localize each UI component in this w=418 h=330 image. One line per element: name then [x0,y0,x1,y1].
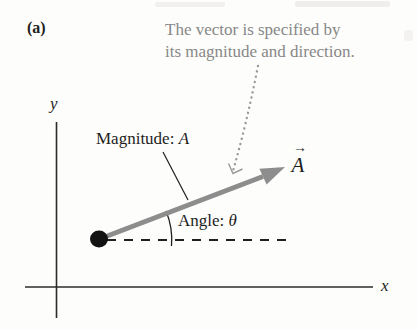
panel-label: (a) [27,18,46,38]
magnitude-callout-text: Magnitude: [96,129,174,148]
vector-symbol-label: → A [289,143,307,179]
annotation-line-1: The vector is specified by [165,20,341,39]
x-axis-label: x [381,275,389,297]
vector-symbol-letter: A [292,153,305,177]
scan-artifact [404,30,413,41]
annotation-note: The vector is specified by its magnitude… [165,19,355,63]
vector-arrowhead-icon [259,167,285,185]
magnitude-leader-line [163,152,188,200]
magnitude-callout: Magnitude: A [96,128,189,150]
scan-artifact [155,2,225,7]
angle-symbol: θ [229,211,237,230]
magnitude-symbol: A [179,129,189,148]
annotation-line-2: its magnitude and direction. [165,42,355,61]
vector-tail-dot [90,231,108,248]
angle-callout-text: Angle: [178,211,224,230]
angle-callout: Angle: θ [178,210,237,232]
callout-dotted-line [233,66,258,171]
vector-over-arrow-icon: → [293,143,307,152]
scan-artifact [295,1,390,7]
vector-figure: (a) The vector is specified by its magni… [0,0,418,330]
y-axis-label: y [50,93,58,115]
